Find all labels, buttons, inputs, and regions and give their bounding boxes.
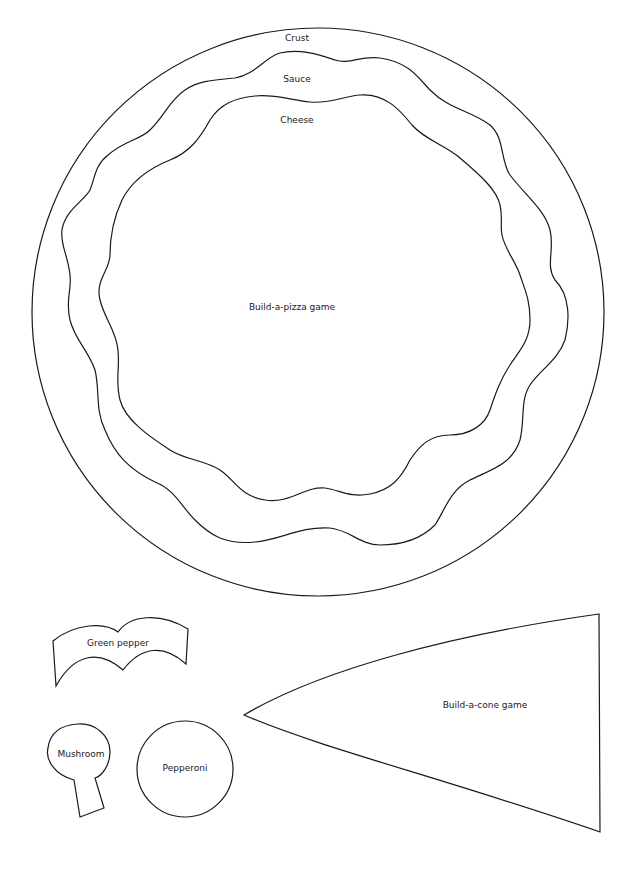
green-pepper-label: Green pepper [87,638,149,648]
sauce-label: Sauce [283,74,310,84]
pepperoni-label: Pepperoni [163,763,208,773]
mushroom-shape[interactable] [47,724,110,817]
cone-shape[interactable] [244,614,600,832]
cone-title: Build-a-cone game [443,700,528,710]
mushroom-label: Mushroom [57,749,104,759]
green-pepper-shape[interactable] [53,618,188,686]
pizza-title: Build-a-pizza game [249,302,335,312]
crust-label: Crust [285,33,309,43]
cheese-label: Cheese [280,115,313,125]
